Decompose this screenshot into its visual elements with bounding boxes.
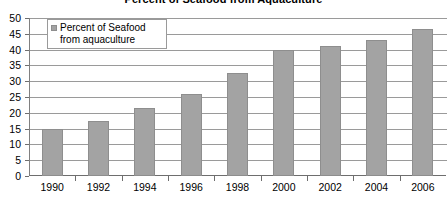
x-axis-tick-label: 1998 [214,182,260,193]
bar [88,121,109,176]
x-axis-tick-mark [168,176,169,181]
x-axis-tick-mark [75,176,76,181]
bar [273,50,294,176]
x-axis-tick-mark [400,176,401,181]
x-axis-tick-mark [261,176,262,181]
bar [227,73,248,176]
y-axis-tick-label: 45 [0,29,21,39]
y-axis-tick-label: 0 [0,171,21,181]
legend-label: Percent of Seafood from aquaculture [60,22,162,45]
y-axis-tick-mark [25,176,29,177]
y-axis-tick-label: 40 [0,45,21,55]
x-axis-tick-mark [214,176,215,181]
bar [134,108,155,176]
x-axis-tick-label: 1992 [75,182,121,193]
y-axis-tick-label: 25 [0,92,21,102]
y-axis-tick-label: 5 [0,155,21,165]
x-axis-tick-label: 2000 [261,182,307,193]
chart-legend: Percent of Seafood from aquaculture [47,19,167,49]
bar [366,40,387,176]
legend-swatch-icon [51,25,57,31]
y-axis-tick-mark [25,18,29,19]
x-axis-tick-label: 2002 [307,182,353,193]
x-axis-tick-mark [353,176,354,181]
x-axis-tick-label: 2004 [353,182,399,193]
bar-chart: Percent of Seafood from Aquaculture 0510… [0,0,447,199]
x-axis-tick-mark [122,176,123,181]
y-axis-tick-mark [25,65,29,66]
y-axis-tick-mark [25,34,29,35]
y-axis-tick-mark [25,113,29,114]
y-axis-tick-mark [25,81,29,82]
bar [181,94,202,176]
y-axis-tick-mark [25,144,29,145]
y-axis-tick-mark [25,97,29,98]
bar [320,46,341,176]
x-axis-tick-label: 1994 [122,182,168,193]
y-axis-tick-mark [25,50,29,51]
y-axis-tick-label: 10 [0,139,21,149]
bar [42,129,63,176]
y-axis-tick-mark [25,129,29,130]
y-axis-tick-label: 30 [0,76,21,86]
x-axis-tick-mark [307,176,308,181]
y-axis-tick-label: 20 [0,108,21,118]
y-axis-tick-mark [25,160,29,161]
y-axis-tick-label: 50 [0,13,21,23]
x-axis-tick-label: 1996 [168,182,214,193]
x-axis-tick-label: 1990 [29,182,75,193]
x-axis-tick-label: 2006 [400,182,446,193]
y-axis-tick-label: 15 [0,124,21,134]
bar [412,29,433,176]
chart-title: Percent of Seafood from Aquaculture [0,0,447,5]
y-axis-tick-label: 35 [0,60,21,70]
